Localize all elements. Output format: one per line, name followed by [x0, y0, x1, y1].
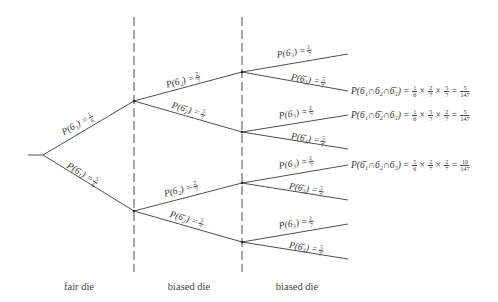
probability-tree-lines: [0, 0, 498, 302]
result-1: P(6₁∩6₂∩6̄₃) = 16 × 27 × 57 = 5147: [351, 85, 469, 98]
branch-s1-six: [43, 101, 134, 155]
stage-label-biased-die-1: biased die: [168, 281, 210, 292]
stage-label-fair-die: fair die: [64, 281, 94, 292]
result-2: P(6₁∩6̄₂∩6₃) = 16 × 57 × 27 = 5147: [351, 109, 469, 122]
result-3: P(6̄₁∩6₂∩6₃) = 56 × 27 × 27 = 10147: [351, 159, 469, 172]
stage-label-biased-die-2: biased die: [276, 281, 318, 292]
